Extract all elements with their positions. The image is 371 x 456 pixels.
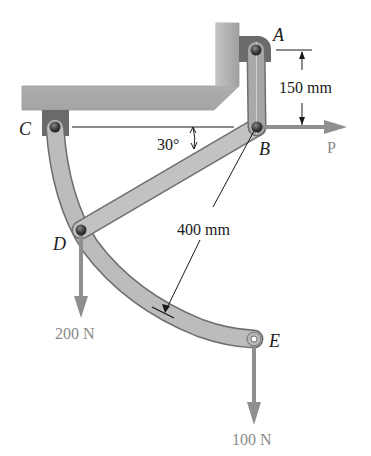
force-p-arrow	[262, 120, 347, 134]
pin-b	[252, 122, 263, 133]
pin-d	[76, 225, 87, 236]
label-400mm: 400 mm	[177, 222, 230, 238]
label-force-p: P	[327, 140, 336, 156]
pin-e	[247, 332, 261, 346]
label-150mm: 150 mm	[279, 80, 332, 96]
pin-a	[251, 45, 262, 56]
angle-indicator	[190, 127, 197, 149]
link-ab	[256, 50, 257, 127]
label-angle-30: 30°	[157, 137, 179, 153]
label-point-a: A	[273, 26, 284, 44]
label-point-b: B	[259, 140, 270, 158]
label-point-d: D	[53, 235, 66, 253]
pin-c	[50, 122, 61, 133]
label-force-200n: 200 N	[55, 326, 95, 342]
fixed-frame	[22, 23, 239, 110]
label-point-e: E	[269, 332, 280, 350]
label-point-c: C	[19, 120, 31, 138]
label-force-100n: 100 N	[232, 432, 272, 448]
force-100n-arrow	[247, 341, 261, 425]
